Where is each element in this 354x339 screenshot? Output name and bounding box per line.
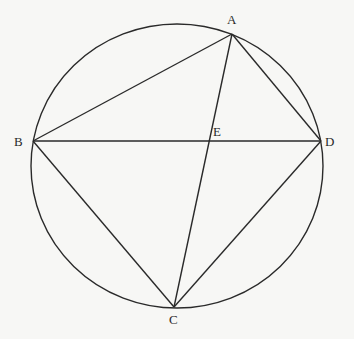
segment-ac — [174, 34, 232, 307]
segment-ad — [232, 34, 321, 141]
label-point-c: C — [169, 312, 178, 327]
geometry-diagram: A B C D E — [0, 0, 354, 339]
label-point-b: B — [14, 134, 23, 149]
label-point-d: D — [325, 134, 334, 149]
segment-bc — [33, 141, 174, 307]
segment-cd — [174, 141, 321, 307]
diagram-svg: A B C D E — [0, 0, 354, 339]
label-point-a: A — [227, 12, 237, 27]
segment-ab — [33, 34, 232, 141]
circumscribed-circle — [31, 24, 323, 308]
label-point-e: E — [213, 124, 221, 139]
